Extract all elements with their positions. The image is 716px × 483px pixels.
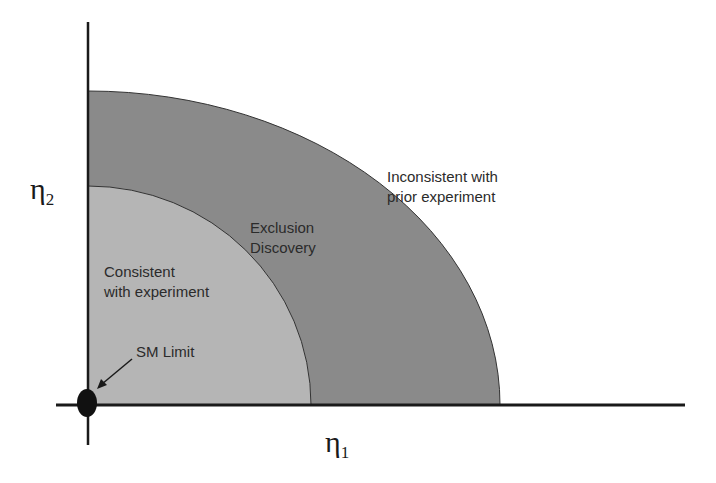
inconsistent-label: Inconsistent withprior experiment bbox=[387, 167, 498, 207]
x-axis-label: η1 bbox=[325, 427, 349, 468]
phase-diagram bbox=[0, 0, 716, 483]
sm-limit-point bbox=[77, 389, 97, 417]
sm-limit-label: SM Limit bbox=[136, 342, 194, 362]
y-axis-label: η2 bbox=[30, 174, 54, 215]
consistent-label: Consistentwith experiment bbox=[104, 262, 209, 302]
exclusion-discovery-label: ExclusionDiscovery bbox=[250, 218, 316, 258]
